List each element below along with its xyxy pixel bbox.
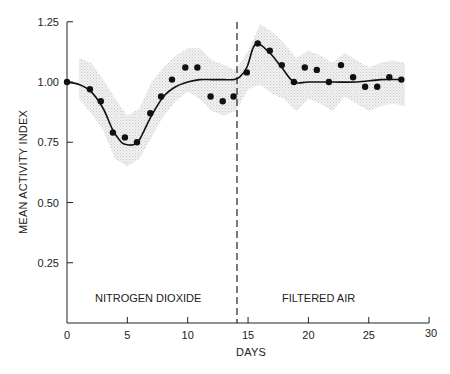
nitrogen-dioxide-label: NITROGEN DIOXIDE (95, 292, 201, 304)
data-point (220, 98, 226, 104)
y-axis-ticks: 0.250.500.751.001.25 (38, 16, 73, 269)
data-point (134, 139, 140, 145)
data-point (362, 84, 368, 90)
data-point (374, 84, 380, 90)
data-point (87, 86, 93, 92)
y-tick-label: 1.25 (38, 16, 59, 28)
x-tick-label: 5 (124, 329, 130, 341)
data-point (194, 64, 200, 70)
data-point (230, 93, 236, 99)
data-point (147, 110, 153, 116)
y-tick-label: 1.00 (38, 76, 59, 88)
y-axis-title: MEAN ACTIVITY INDEX (17, 110, 29, 234)
x-axis-title: DAYS (236, 346, 266, 358)
data-point (267, 48, 273, 54)
x-tick-label: 10 (182, 329, 194, 341)
x-tick-label: 20 (302, 329, 314, 341)
x-tick-label: 30 (425, 327, 437, 339)
x-tick-label: 0 (64, 329, 70, 341)
data-point (350, 74, 356, 80)
x-tick-label: 15 (242, 329, 254, 341)
data-point (207, 93, 213, 99)
data-point (64, 79, 70, 85)
data-point (314, 67, 320, 73)
x-tick-label: 25 (363, 329, 375, 341)
filtered-air-label: FILTERED AIR (282, 292, 355, 304)
data-point (122, 134, 128, 140)
data-point (302, 64, 308, 70)
data-point (326, 79, 332, 85)
y-tick-label: 0.25 (38, 257, 59, 269)
data-point (398, 76, 404, 82)
data-point (182, 64, 188, 70)
activity-index-chart: 0.250.500.751.001.25 051015202530 MEAN A… (0, 0, 450, 374)
data-point (279, 62, 285, 68)
y-tick-label: 0.50 (38, 197, 59, 209)
data-point (244, 69, 250, 75)
data-point (338, 62, 344, 68)
y-tick-label: 0.75 (38, 136, 59, 148)
data-point (98, 98, 104, 104)
data-point (169, 76, 175, 82)
data-point (386, 74, 392, 80)
data-point (110, 129, 116, 135)
data-point (291, 79, 297, 85)
x-axis-ticks: 051015202530 (64, 317, 437, 341)
data-point (255, 40, 261, 46)
data-point (158, 93, 164, 99)
